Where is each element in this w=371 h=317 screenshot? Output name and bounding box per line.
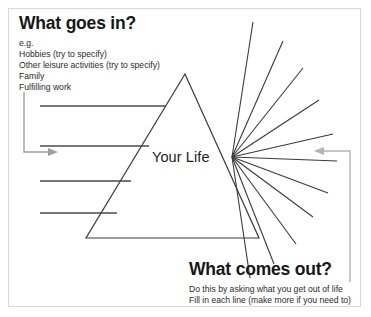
output-instruction-item: Do this by asking what you get out of li… (189, 284, 351, 295)
diagram-canvas: What goes in? e.g.Hobbies (try to specif… (0, 0, 371, 317)
input-example-item: e.g. (19, 38, 160, 49)
input-example-item: Fulfilling work (19, 82, 160, 93)
input-heading: What goes in? (19, 13, 136, 34)
output-line (232, 41, 283, 157)
input-example-item: Family (19, 71, 160, 82)
output-line (232, 157, 328, 193)
input-example-item: Hobbies (try to specify) (19, 49, 160, 60)
output-line (232, 22, 253, 157)
output-line (232, 157, 337, 161)
output-heading: What comes out? (189, 259, 332, 280)
input-lines-group (40, 106, 166, 213)
output-instruction-list: Do this by asking what you get out of li… (189, 284, 351, 306)
center-label: Your Life (152, 149, 210, 165)
output-instruction-item: Fill in each line (make more if you need… (189, 295, 351, 306)
input-example-item: Other leisure activities (try to specify… (19, 60, 160, 71)
input-example-list: e.g.Hobbies (try to specify)Other leisur… (19, 38, 160, 93)
